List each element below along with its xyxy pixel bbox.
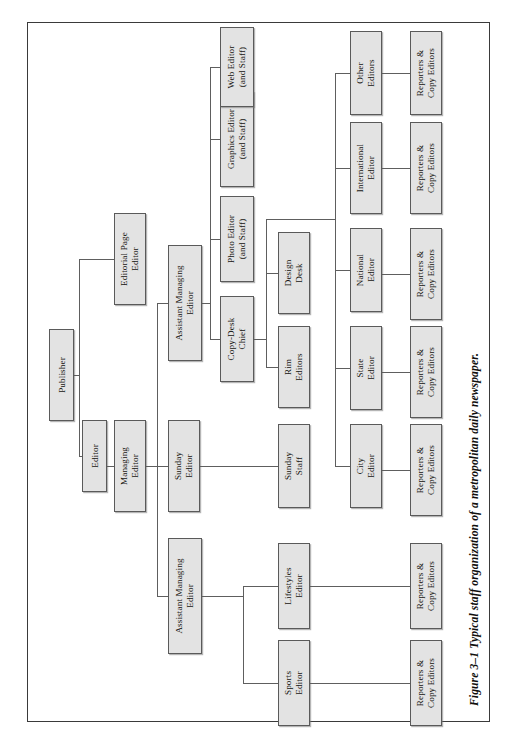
figure-plate: PublisherEditorEditorial PageEditorManag… [0, 0, 515, 746]
org-node-label: Copy-DeskChief [226, 318, 247, 361]
org-node-label: LifestylesEditor [283, 567, 304, 604]
org-node-sunday_editor: SundayEditor [168, 420, 200, 512]
connector-ame_news-stub [202, 303, 210, 304]
org-node-national_editor: NationalEditor [350, 228, 382, 312]
connector-state_editor-rc_state [382, 372, 410, 373]
org-node-label: Reporters &Copy Editors [415, 249, 436, 299]
org-node-state_editor: StateEditor [350, 326, 382, 410]
org-node-other_editors: OtherEditors [350, 31, 382, 115]
org-node-photo_editor: Photo Editor(and Staff) [220, 196, 254, 282]
org-node-label: Reporters &Copy Editors [415, 445, 436, 495]
connector-copy_desk_chief-rim_editors [266, 367, 278, 368]
connector-ame_news-copy_desk_chief [210, 339, 220, 340]
org-node-label: Editor [89, 444, 100, 468]
org-node-design_desk: DesignDesk [278, 232, 310, 314]
connector-managing_editor-stub [146, 466, 157, 467]
org-node-sunday_staff: SundayStaff [278, 424, 310, 508]
org-node-label: DesignDesk [283, 260, 304, 287]
org-node-ame_features: Assistant ManagingEditor [168, 538, 202, 654]
org-node-label: Photo Editor(and Staff) [226, 215, 247, 263]
org-node-rc_sports: Reporters &Copy Editors [410, 640, 442, 726]
org-node-international_editor: InternationalEditor [350, 122, 382, 214]
org-node-label: StateEditor [355, 356, 376, 380]
connector-publisher-spine [79, 259, 80, 456]
connector-sunday_editor-sunday_staff [200, 466, 278, 467]
org-node-rc_lifestyles: Reporters &Copy Editors [410, 543, 442, 629]
org-node-label: ManagingEditor [119, 447, 140, 485]
connector-lifestyles_editor-rc_lifestyles [310, 586, 410, 587]
org-node-publisher: Publisher [49, 329, 74, 421]
org-node-label: NationalEditor [355, 254, 376, 287]
connector-copy_desk_chief-state_editor [335, 368, 350, 369]
org-node-rc_national: Reporters &Copy Editors [410, 228, 442, 320]
connector-copy_desk_chief-design_desk [266, 273, 278, 274]
connector-copy_desk_chief-other_editors [335, 73, 350, 74]
org-node-label: OtherEditors [355, 59, 376, 86]
org-node-rc_state: Reporters &Copy Editors [410, 326, 442, 418]
org-node-rc_international: Reporters &Copy Editors [410, 122, 442, 214]
org-node-label: Editorial PageEditor [119, 232, 140, 286]
org-node-label: SundayEditor [173, 452, 194, 480]
org-node-rc_city: Reporters &Copy Editors [410, 424, 442, 516]
connector-ame_features-spine [243, 586, 244, 683]
org-node-managing_editor: ManagingEditor [114, 420, 146, 512]
org-node-label: InternationalEditor [355, 144, 376, 192]
org-node-sports_editor: SportsEditor [278, 640, 310, 726]
connector-managing_editor-sunday_editor [157, 466, 168, 467]
org-node-label: Publisher [56, 357, 67, 393]
org-node-label: Reporters &Copy Editors [415, 143, 436, 193]
org-node-editorial_page: Editorial PageEditor [114, 213, 146, 305]
connector-national_editor-rc_national [382, 274, 410, 275]
connector-managing_editor-ame_features [157, 596, 168, 597]
org-node-label: Graphics Editor(and Staff) [226, 109, 247, 169]
connector-ame_news-graphics_editor [210, 139, 220, 140]
connector-copy_desk_chief-city_editor [335, 466, 350, 467]
org-node-rc_other: Reporters &Copy Editors [410, 31, 442, 115]
connector-ame_features-sports_editor [243, 683, 278, 684]
org-node-label: RimEditors [283, 353, 304, 380]
connector-publisher-editor [79, 456, 82, 457]
org-node-web_editor: Web Editor(and Staff) [220, 27, 254, 107]
org-node-lifestyles_editor: LifestylesEditor [278, 543, 310, 629]
connector-copy_desk_chief-international_editor [335, 168, 350, 169]
connector-ame_features-stub [202, 596, 243, 597]
connector-ame_news-web_editor [210, 67, 220, 68]
connector-managing_editor-ame_news [157, 303, 168, 304]
connector-city_editor-rc_city [382, 470, 410, 471]
connector-copy_desk_chief-desks-riser [266, 219, 267, 339]
connector-editor-managing_editor [107, 466, 114, 467]
org-node-label: Reporters &Copy Editors [415, 48, 436, 98]
org-node-label: Reporters &Copy Editors [415, 658, 436, 708]
org-node-label: CityEditor [355, 454, 376, 478]
org-node-rim_editors: RimEditors [278, 326, 310, 408]
org-node-city_editor: CityEditor [350, 424, 382, 508]
connector-copy_desk_chief-desks-stub [266, 219, 335, 220]
org-node-copy_desk_chief: Copy-DeskChief [220, 296, 254, 382]
org-node-label: Assistant ManagingEditor [174, 265, 195, 340]
figure-caption: Figure 3–1 Typical staff organization of… [468, 353, 481, 706]
org-node-label: Reporters &Copy Editors [415, 347, 436, 397]
connector-ame_news-photo_editor [210, 239, 220, 240]
connector-publisher-editorial_page [79, 259, 114, 260]
org-node-ame_news: Assistant ManagingEditor [168, 245, 202, 361]
org-node-label: SportsEditor [283, 671, 304, 695]
connector-managing_editor-spine [157, 303, 158, 596]
connector-sports_editor-rc_sports [310, 683, 410, 684]
org-chart: PublisherEditorEditorial PageEditorManag… [0, 0, 515, 746]
connector-other_editors-rc_other [382, 73, 410, 74]
connector-international_editor-rc_international [382, 168, 410, 169]
org-node-label: SundayStaff [283, 452, 304, 480]
org-node-label: Reporters &Copy Editors [415, 561, 436, 611]
connector-copy_desk_chief-stub [254, 339, 266, 340]
connector-copy_desk_chief-national_editor [335, 270, 350, 271]
org-node-label: Assistant ManagingEditor [174, 558, 195, 633]
org-node-label: Web Editor(and Staff) [226, 46, 247, 89]
connector-ame_news-spine [210, 67, 211, 339]
connector-ame_features-lifestyles_editor [243, 586, 278, 587]
org-node-editor: Editor [82, 420, 107, 492]
